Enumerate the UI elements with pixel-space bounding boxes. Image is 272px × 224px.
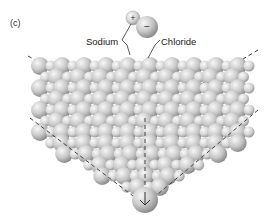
sodium-sphere — [193, 160, 204, 171]
sodium-sphere — [244, 105, 255, 116]
crystal-lattice — [31, 57, 255, 196]
chloride-sphere — [229, 134, 247, 152]
nacl-crystal-diagram: + − — [0, 0, 272, 224]
chloride-sphere — [209, 145, 227, 163]
minus-sign-icon: − — [144, 21, 150, 32]
plus-sign-icon: + — [130, 13, 135, 23]
sodium-sphere — [244, 61, 255, 72]
sodium-sphere — [244, 127, 255, 138]
sodium-sphere — [244, 83, 255, 94]
